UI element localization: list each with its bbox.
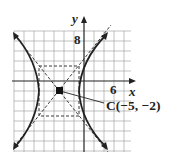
y-axis-arrow-icon	[81, 16, 87, 23]
center-annotation: C(−5, −2)	[106, 99, 160, 113]
hyperbola-graph	[0, 0, 188, 154]
y-tick-label: 8	[74, 33, 81, 46]
y-axis-label: y	[72, 12, 78, 25]
x-tick-label: 6	[110, 83, 117, 96]
x-axis-label: x	[129, 85, 136, 98]
center-point	[56, 87, 63, 94]
